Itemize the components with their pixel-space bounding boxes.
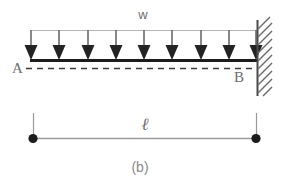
load-arrows-group — [25, 30, 263, 60]
arrowhead-icon — [25, 45, 38, 60]
fixed-support-wall — [258, 17, 273, 96]
load-arrow — [25, 30, 38, 60]
arrowhead-icon — [166, 45, 179, 60]
load-arrow — [53, 30, 66, 60]
support-label-b: B — [234, 69, 244, 85]
arrowhead-icon — [110, 45, 123, 60]
figure-caption: (b) — [131, 159, 148, 175]
load-arrow — [138, 30, 151, 60]
load-arrow — [110, 30, 123, 60]
arrowhead-icon — [82, 45, 95, 60]
load-arrow — [166, 30, 179, 60]
beam-diagram-figure: A B w ℓ (b) — [0, 0, 286, 182]
arrowhead-icon — [223, 45, 236, 60]
load-arrow — [223, 30, 236, 60]
dimension-endpoint-dot-right — [251, 134, 260, 143]
length-label: ℓ — [141, 115, 148, 134]
load-arrow — [82, 30, 95, 60]
wall-hatching-icon — [258, 17, 272, 96]
arrowhead-icon — [53, 45, 66, 60]
arrowhead-icon — [138, 45, 151, 60]
dimension-group: ℓ — [28, 113, 260, 143]
support-label-a: A — [12, 60, 23, 76]
dimension-endpoint-dot-left — [28, 134, 37, 143]
load-label-w: w — [137, 7, 148, 22]
beam-diagram-canvas: A B w ℓ (b) — [0, 0, 286, 182]
load-arrow — [195, 30, 208, 60]
arrowhead-icon — [195, 45, 208, 60]
